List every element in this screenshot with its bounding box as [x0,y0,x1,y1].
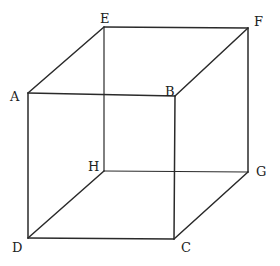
vertex-label-e: E [100,11,110,26]
edge-DH [28,171,104,238]
vertex-label-f: F [254,14,263,29]
edge-GH [104,171,248,172]
edge-BC [174,96,175,239]
edge-EF [104,27,248,28]
vertex-label-b: B [165,84,175,99]
vertex-label-a: A [9,89,20,104]
edge-CD [28,238,174,239]
cube-edges [28,27,248,239]
vertex-label-d: D [12,240,22,255]
cube-diagram: A B C D E F G H [0,0,280,266]
edge-CG [174,172,248,239]
vertex-label-c: C [181,240,191,255]
vertex-label-g: G [256,164,266,179]
edge-BF [175,28,248,96]
edge-AE [28,27,104,93]
edge-AB [28,93,175,96]
vertex-label-h: H [88,159,99,174]
